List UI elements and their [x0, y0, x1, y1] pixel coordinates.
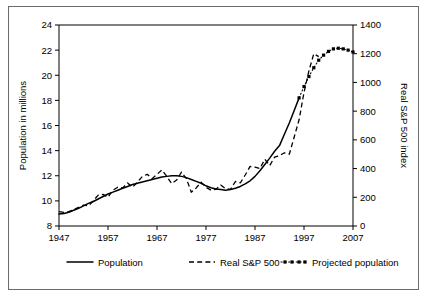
y2-axis-title: Real S&P 500 index — [399, 83, 410, 168]
x-axis-tick-label: 1997 — [293, 232, 314, 243]
series-line-projected-population — [299, 48, 353, 98]
y-axis-tick-label: 22 — [41, 45, 52, 56]
x-axis-tick-label: 2007 — [342, 232, 363, 243]
series-marker-projected-population — [342, 47, 345, 50]
y2-axis-tick-label: 1200 — [360, 48, 381, 59]
legend-marker-projected-population — [303, 260, 306, 263]
series-marker-projected-population — [298, 96, 301, 99]
x-axis-tick-label: 1957 — [97, 232, 118, 243]
y-axis-tick-label: 12 — [41, 170, 52, 181]
series-marker-projected-population — [347, 49, 350, 52]
y2-axis-tick-label: 800 — [360, 106, 376, 117]
series-marker-projected-population — [307, 75, 310, 78]
x-axis-tick-label: 1947 — [48, 232, 69, 243]
y2-axis-tick-label: 1400 — [360, 19, 381, 30]
series-marker-projected-population — [337, 47, 340, 50]
y-axis-tick-label: 8 — [47, 220, 52, 231]
legend-label: Real S&P 500 — [220, 257, 280, 268]
legend-marker-projected-population — [297, 260, 300, 263]
series-line-population — [59, 98, 299, 214]
y2-axis-tick-label: 1000 — [360, 77, 381, 88]
series-marker-projected-population — [327, 50, 330, 53]
series-marker-projected-population — [332, 47, 335, 50]
series-marker-projected-population — [312, 66, 315, 69]
x-axis-tick-label: 1967 — [146, 232, 167, 243]
line-chart: 8101214161820222402004006008001000120014… — [9, 7, 418, 289]
legend-marker-projected-population — [290, 260, 293, 263]
y2-axis-tick-label: 400 — [360, 163, 376, 174]
x-axis-tick-label: 1977 — [195, 232, 216, 243]
series-marker-projected-population — [322, 54, 325, 57]
y2-axis-tick-label: 200 — [360, 192, 376, 203]
x-axis-tick-label: 1987 — [244, 232, 265, 243]
y-axis-tick-label: 20 — [41, 70, 52, 81]
legend-label: Population — [98, 257, 143, 268]
figure-container: 8101214161820222402004006008001000120014… — [0, 0, 427, 296]
series-line-real-sp500 — [59, 54, 319, 213]
series-marker-projected-population — [317, 59, 320, 62]
y-axis-tick-label: 10 — [41, 195, 52, 206]
legend-marker-projected-population — [283, 260, 286, 263]
figure-border: 8101214161820222402004006008001000120014… — [8, 6, 419, 290]
y-axis-tick-label: 16 — [41, 120, 52, 131]
y-axis-tick-label: 14 — [41, 145, 52, 156]
y-axis-tick-label: 18 — [41, 95, 52, 106]
y-axis-title: Population in millions — [17, 81, 28, 170]
series-marker-projected-population — [351, 50, 354, 53]
legend-label: Projected population — [312, 257, 399, 268]
series-marker-projected-population — [302, 85, 305, 88]
y-axis-tick-label: 24 — [41, 19, 52, 30]
y2-axis-tick-label: 0 — [360, 220, 365, 231]
y2-axis-tick-label: 600 — [360, 134, 376, 145]
